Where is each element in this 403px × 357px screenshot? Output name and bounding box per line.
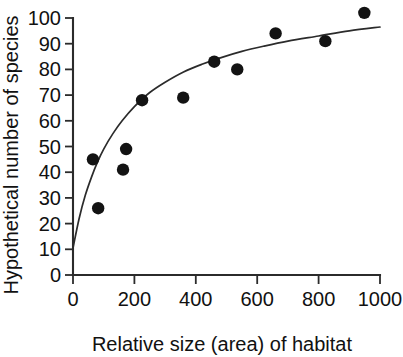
y-tick-label-90: 90 — [39, 33, 61, 55]
y-axis-title: Hypothetical number of species — [0, 15, 22, 294]
x-tick-label-600: 600 — [241, 288, 274, 310]
x-axis: 02004006008001000 — [67, 275, 402, 310]
y-tick-label-50: 50 — [39, 136, 61, 158]
fit-curve — [73, 27, 380, 248]
species-area-chart: 0102030405060708090100 02004006008001000… — [0, 0, 403, 357]
y-tick-label-10: 10 — [39, 238, 61, 260]
x-tick-label-800: 800 — [302, 288, 335, 310]
y-tick-label-30: 30 — [39, 187, 61, 209]
y-tick-label-70: 70 — [39, 84, 61, 106]
data-point — [120, 143, 132, 155]
x-axis-ticks: 02004006008001000 — [67, 275, 402, 310]
data-point — [208, 55, 220, 67]
data-point — [319, 35, 331, 47]
data-points — [87, 7, 371, 215]
y-axis-ticks: 0102030405060708090100 — [28, 7, 73, 286]
data-point — [92, 202, 104, 214]
data-point — [136, 94, 148, 106]
y-tick-label-100: 100 — [28, 7, 61, 29]
y-tick-label-80: 80 — [39, 58, 61, 80]
y-tick-label-0: 0 — [50, 264, 61, 286]
x-tick-label-400: 400 — [179, 288, 212, 310]
x-tick-label-200: 200 — [118, 288, 151, 310]
data-point — [231, 63, 243, 75]
y-tick-label-60: 60 — [39, 110, 61, 132]
data-point — [177, 91, 189, 103]
data-point — [117, 163, 129, 175]
chart-canvas: 0102030405060708090100 02004006008001000… — [0, 0, 403, 357]
x-tick-label-0: 0 — [67, 288, 78, 310]
data-point — [358, 7, 370, 19]
y-tick-label-20: 20 — [39, 213, 61, 235]
plot-area — [73, 7, 380, 248]
x-axis-title: Relative size (area) of habitat — [92, 333, 353, 355]
data-point — [269, 27, 281, 39]
y-tick-label-40: 40 — [39, 161, 61, 183]
data-point — [87, 153, 99, 165]
y-axis: 0102030405060708090100 — [28, 7, 73, 286]
x-tick-label-1000: 1000 — [358, 288, 403, 310]
